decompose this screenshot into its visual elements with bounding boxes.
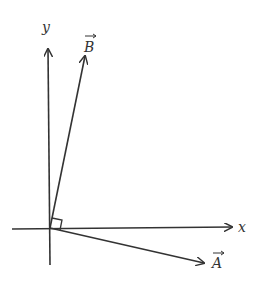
svg-text:A: A <box>210 255 222 271</box>
vector-a-label: A <box>210 251 224 271</box>
vector-b-label: B <box>83 34 96 55</box>
vector-diagram: y x B A <box>0 0 254 281</box>
x-axis <box>12 227 232 229</box>
vector-a <box>50 228 204 263</box>
y-axis-label: y <box>41 19 51 35</box>
svg-text:B: B <box>83 39 94 55</box>
vector-b <box>50 56 85 228</box>
x-axis-label: x <box>238 219 246 235</box>
y-axis <box>48 49 50 265</box>
